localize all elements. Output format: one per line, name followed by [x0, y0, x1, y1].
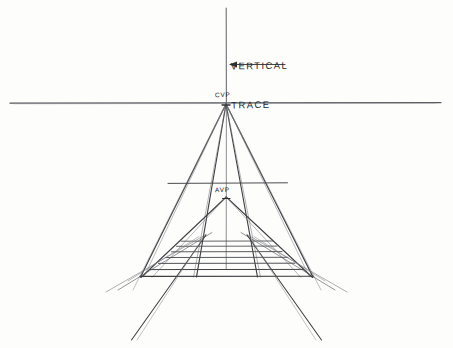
avp-crossbar	[168, 183, 288, 184]
drawing-canvas: VERTICAL TRACE CVP AVP	[0, 0, 453, 348]
avp-crossbar-group	[168, 183, 288, 184]
vertical-trace-label: VERTICAL TRACE	[230, 33, 289, 138]
vertical-trace-label-line1: VERTICAL	[231, 59, 289, 73]
perspective-construction-svg	[0, 0, 453, 348]
vertical-trace-label-line2: TRACE	[231, 98, 289, 112]
cvp-label: CVP	[215, 91, 231, 99]
avp-label: AVP	[215, 186, 230, 194]
